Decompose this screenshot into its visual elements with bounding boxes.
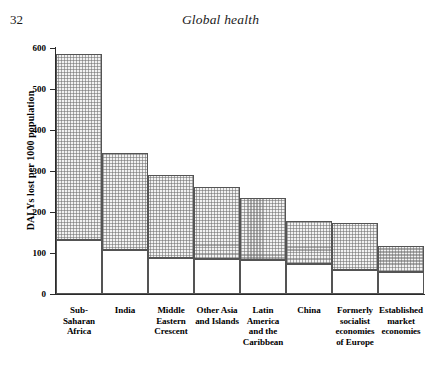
y-tick-label-wrap: 200 xyxy=(20,208,46,217)
y-tick-label-wrap: 300 xyxy=(20,167,46,176)
y-tick-label-wrap: 100 xyxy=(20,249,46,258)
bar-segment-upper xyxy=(148,175,194,258)
bar-group xyxy=(56,54,102,294)
bar-segment-upper xyxy=(332,223,378,270)
bar-group xyxy=(148,175,194,294)
bar-segment-upper xyxy=(194,187,240,260)
x-axis-label-line: Saharan xyxy=(52,316,106,327)
bar-segment-lower xyxy=(102,250,148,294)
bar-group xyxy=(332,223,378,294)
bar-group xyxy=(194,187,240,294)
bar-segment-lower xyxy=(378,272,424,294)
bar-segment-lower xyxy=(148,258,194,294)
y-tick-label: 500 xyxy=(20,85,46,94)
x-axis-label-line: market xyxy=(374,316,428,327)
x-axis-label-line: Crescent xyxy=(144,326,198,337)
x-axis-label-line: and the xyxy=(236,326,290,337)
bar-segment-upper xyxy=(286,221,332,264)
y-tick-label: 600 xyxy=(20,44,46,53)
x-axis-label-line: America xyxy=(236,316,290,327)
x-axis-label-line: Africa xyxy=(52,326,106,337)
bar-segment-upper xyxy=(378,246,424,272)
y-tick-label: 200 xyxy=(20,208,46,217)
y-axis-title: DALYs lost per 1000 population xyxy=(25,71,36,251)
y-tick-label-wrap: 0 xyxy=(20,290,46,299)
bar-segment-lower xyxy=(56,240,102,294)
figure-dalys-by-region: 32 Global health DALYs lost per 1000 pop… xyxy=(0,0,441,368)
x-axis-label-line: Caribbean xyxy=(236,337,290,348)
bar-segment-lower xyxy=(194,259,240,294)
bar-group xyxy=(102,153,148,294)
x-axis-label-line: of Europe xyxy=(328,337,382,348)
bar-segment-lower xyxy=(240,260,286,294)
bar-segment-upper xyxy=(102,153,148,250)
x-axis-label: Establishedmarketeconomies xyxy=(374,305,428,337)
y-tick-label-wrap: 500 xyxy=(20,85,46,94)
x-axis-line xyxy=(55,294,425,295)
bar-segment-upper xyxy=(240,198,286,260)
bar-segment-lower xyxy=(332,270,378,294)
running-head: Global health xyxy=(0,13,441,27)
bar-segment-upper xyxy=(56,54,102,240)
x-axis-label-line: economies xyxy=(374,326,428,337)
x-axis-label-line: Established xyxy=(374,305,428,316)
y-tick-label-wrap: 600 xyxy=(20,44,46,53)
bar-group xyxy=(240,198,286,294)
y-tick-label-wrap: 400 xyxy=(20,126,46,135)
bar-group xyxy=(286,221,332,294)
bar-segment-lower xyxy=(286,264,332,294)
y-tick-label: 400 xyxy=(20,126,46,135)
y-tick-label: 300 xyxy=(20,167,46,176)
y-tick-label: 0 xyxy=(20,290,46,299)
y-tick-label: 100 xyxy=(20,249,46,258)
bar-group xyxy=(378,246,424,294)
